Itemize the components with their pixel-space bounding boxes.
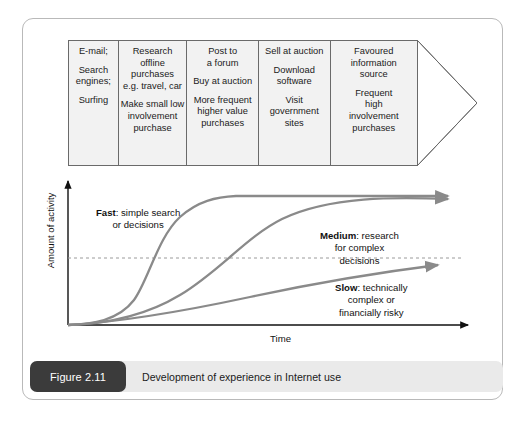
curve-label-slow: Slow: technically complex or financially… [335, 282, 408, 319]
x-axis-label: Time [270, 333, 291, 344]
stage-5-item-2: Frequent high involvement purchases [333, 88, 415, 134]
figure-number-tag: Figure 2.11 [30, 361, 126, 392]
experience-stages-banner: E-mail; Search engines; Surfing Research… [68, 40, 477, 166]
curve-label-fast-name: Fast [96, 207, 116, 218]
curve-label-medium: Medium: research for complex decisions [320, 230, 399, 267]
figure-caption-bar: Figure 2.11 Development of experience in… [30, 361, 503, 392]
curve-label-fast-line2: or decisions [113, 219, 164, 230]
curve-label-medium-line3: decisions [339, 255, 379, 266]
stage-4-item-3: Visit government sites [261, 95, 328, 130]
y-axis-label: Amount of activity [45, 166, 56, 296]
curve-label-slow-line3: financially risky [339, 307, 404, 318]
curve-label-medium-line2: for complex [335, 242, 385, 253]
stage-3-item-3: More frequent higher value purchases [189, 95, 256, 130]
stage-column-5: Favoured information source Frequent hig… [331, 41, 417, 165]
arrow-head-icon [416, 41, 477, 165]
stage-3-item-1: Post to a forum [189, 46, 256, 69]
stage-1-item-2: Search engines; [71, 65, 116, 88]
curve-label-fast: Fast: simple search or decisions [96, 207, 180, 232]
curve-label-medium-rest: : research [356, 230, 399, 241]
stage-4-item-1: Sell at auction [261, 46, 328, 58]
stage-2-item-2: Make small low involvement purchase [121, 99, 185, 134]
experience-curves-chart: Amount of activity Time Fast: simple sea… [30, 175, 490, 350]
stage-column-1: E-mail; Search engines; Surfing [69, 41, 119, 165]
stage-column-2: Research offline purchases e.g. travel, … [119, 41, 188, 165]
stage-column-4: Sell at auction Download software Visit … [259, 41, 331, 165]
chart-svg [30, 175, 490, 350]
figure-caption-text: Development of experience in Internet us… [142, 361, 341, 392]
stage-2-item-1: Research offline purchases e.g. travel, … [121, 46, 185, 92]
stage-3-item-2: Buy at auction [189, 76, 256, 88]
stage-4-item-2: Download software [261, 65, 328, 88]
stage-1-item-1: E-mail; [71, 46, 116, 58]
stage-1-item-3: Surfing [71, 95, 116, 107]
curve-label-slow-name: Slow [335, 282, 357, 293]
figure-root: E-mail; Search engines; Surfing Research… [0, 0, 525, 422]
curve-label-fast-rest: : simple search [116, 207, 181, 218]
stage-column-3: Post to a forum Buy at auction More freq… [187, 41, 259, 165]
stage-5-item-1: Favoured information source [333, 46, 415, 81]
curve-label-slow-rest: : technically [357, 282, 407, 293]
curve-label-slow-line2: complex or [348, 294, 395, 305]
curve-label-medium-name: Medium [320, 230, 356, 241]
stages-table: E-mail; Search engines; Surfing Research… [68, 40, 418, 166]
